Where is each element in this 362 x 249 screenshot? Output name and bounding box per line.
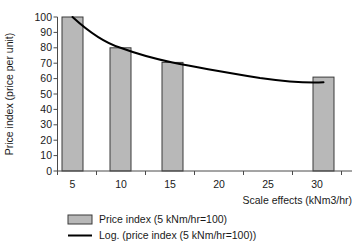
y-tick-label: 70	[40, 57, 52, 69]
legend-swatch-bar	[68, 215, 92, 224]
x-tick-label: 15	[164, 178, 176, 190]
bar-x30	[313, 77, 334, 171]
y-tick-label: 60	[40, 72, 52, 84]
bar-x15	[162, 62, 183, 171]
x-tick-label: 25	[262, 178, 274, 190]
y-tick-label: 40	[40, 103, 52, 115]
x-tick-label: 10	[115, 178, 127, 190]
y-tick-label: 90	[40, 26, 52, 38]
x-tick-label: 5	[70, 178, 76, 190]
bar-x10	[110, 48, 131, 171]
y-axis-title: Price index (price per unit)	[3, 33, 15, 156]
y-tick-label: 0	[46, 165, 52, 177]
legend-label-bar: Price index (5 kNm/hr=100)	[99, 213, 227, 225]
y-tick-label: 20	[40, 134, 52, 146]
y-tick-label: 80	[40, 41, 52, 53]
y-tick-label: 30	[40, 118, 52, 130]
chart-figure: Price index (price per unit) 100 90 80 7…	[0, 0, 362, 249]
legend-label-line: Log. (price index (5 kNm/hr=100))	[99, 229, 256, 241]
y-tick-label: 50	[40, 88, 52, 100]
x-tick-label: 20	[213, 178, 225, 190]
bar-x5	[62, 17, 83, 171]
price-index-bar-chart: Price index (price per unit) 100 90 80 7…	[0, 0, 362, 249]
x-tick-label: 30	[311, 178, 323, 190]
x-axis-title: Scale effects (kNm3/hr)	[242, 194, 352, 206]
y-tick-label: 10	[40, 149, 52, 161]
y-tick-label: 100	[34, 11, 52, 23]
